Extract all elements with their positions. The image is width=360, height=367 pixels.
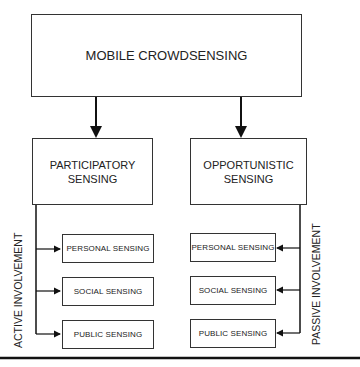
child-label: PUBLIC SENSING <box>199 327 268 341</box>
passive-involvement-label: PASSIVE INVOLVEMENT <box>310 223 322 345</box>
participatory-node: PARTICIPATORY SENSING <box>32 138 153 205</box>
right-public-node: PUBLIC SENSING <box>190 319 276 348</box>
child-label: SOCIAL SENSING <box>74 285 143 299</box>
left-public-node: PUBLIC SENSING <box>62 320 154 349</box>
child-label: PERSONAL SENSING <box>66 242 149 256</box>
child-label: PERSONAL SENSING <box>191 241 274 255</box>
child-label: SOCIAL SENSING <box>199 284 268 298</box>
participatory-label: PARTICIPATORY SENSING <box>50 158 136 186</box>
opportunistic-node: OPPORTUNISTIC SENSING <box>190 138 307 205</box>
left-personal-node: PERSONAL SENSING <box>62 234 154 263</box>
right-personal-node: PERSONAL SENSING <box>190 233 276 262</box>
root-node: MOBILE CROWDSENSING <box>31 14 302 97</box>
right-social-node: SOCIAL SENSING <box>190 276 276 305</box>
root-label: MOBILE CROWDSENSING <box>86 49 248 63</box>
opportunistic-label: OPPORTUNISTIC SENSING <box>203 158 293 186</box>
left-social-node: SOCIAL SENSING <box>62 277 154 306</box>
active-involvement-label: ACTIVE INVOLVEMENT <box>12 233 24 348</box>
child-label: PUBLIC SENSING <box>74 328 143 342</box>
